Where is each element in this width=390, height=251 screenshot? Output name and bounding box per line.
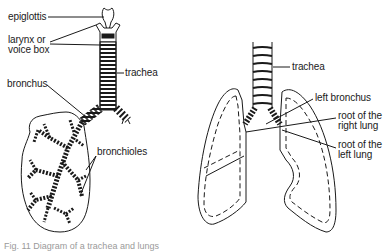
label-trachea-left: trachea xyxy=(125,68,158,78)
figure-caption: Fig. 11 Diagram of a trachea and lungs xyxy=(4,241,159,251)
label-bronchioles: bronchioles xyxy=(97,147,147,157)
label-larynx-line2: voice box xyxy=(8,45,49,55)
epiglottis-shape xyxy=(102,8,114,30)
label-root-right-line2: right lung xyxy=(338,121,378,131)
left-lung-outline xyxy=(280,90,336,232)
label-bronchus: bronchus xyxy=(7,79,47,89)
trachea-shape xyxy=(100,42,116,110)
label-left-bronchus: left bronchus xyxy=(315,93,371,103)
label-epiglottis: epiglottis xyxy=(8,12,46,22)
right-lung-outline xyxy=(198,89,246,224)
label-trachea-right: trachea xyxy=(292,62,325,72)
label-root-left-line2: left lung xyxy=(338,150,372,160)
